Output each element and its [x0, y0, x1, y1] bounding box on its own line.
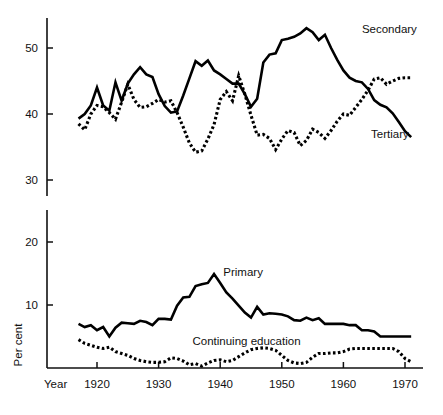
series-line-tertiary	[79, 76, 412, 153]
series-annotation-primary: Primary	[223, 266, 263, 278]
y-axis-tick-label: 50	[25, 42, 38, 54]
series-annotation-continuing-education: Continuing education	[192, 335, 300, 347]
y-axis-tick-label: 40	[25, 108, 38, 120]
line-chart: 1020304050192019301940195019601970YearPe…	[0, 0, 443, 415]
x-axis-tick-label: 1920	[84, 378, 110, 390]
x-axis-tick-label: 1930	[146, 378, 172, 390]
axes	[47, 18, 423, 368]
y-axis-tick-label: 20	[25, 236, 38, 248]
y-axis-title: Per cent	[12, 323, 24, 367]
chart-figure: 1020304050192019301940195019601970YearPe…	[0, 0, 443, 415]
data-series	[79, 28, 412, 366]
y-axis-tick-label: 30	[25, 174, 38, 186]
x-axis-tick-label: 1950	[269, 378, 295, 390]
x-axis-tick-label: 1970	[392, 378, 418, 390]
y-axis-tick-label: 10	[25, 299, 38, 311]
series-annotation-tertiary: Tertiary	[371, 128, 409, 140]
chart-labels: 1020304050192019301940195019601970YearPe…	[12, 23, 418, 390]
x-axis-tick-label: 1960	[331, 378, 357, 390]
x-axis-title: Year	[44, 378, 67, 390]
x-axis-tick-label: 1940	[207, 378, 233, 390]
series-line-primary	[79, 274, 412, 336]
series-annotation-secondary: Secondary	[362, 23, 417, 35]
